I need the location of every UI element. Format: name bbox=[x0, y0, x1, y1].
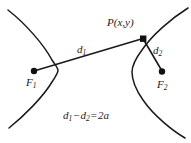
focus-1-text: F bbox=[26, 76, 33, 88]
distance-d1-subscript: 1 bbox=[83, 48, 87, 57]
equation-equals-operator: = bbox=[90, 109, 98, 121]
segment-d1 bbox=[34, 39, 143, 72]
point-p-marker bbox=[140, 36, 146, 42]
equation-d1-text: d bbox=[63, 109, 69, 121]
hyperbola-figure: P(x,y) d1 d2 F1 F2 d1−d2=2a bbox=[0, 0, 191, 143]
distance-d2-subscript: 2 bbox=[159, 49, 163, 58]
point-p-text: P(x,y) bbox=[107, 16, 134, 28]
focus-2-text: F bbox=[157, 78, 164, 90]
distance-d2-text: d bbox=[153, 44, 159, 56]
focus-2-label: F2 bbox=[157, 79, 167, 90]
focus-1-label: F1 bbox=[26, 77, 36, 88]
figure-canvas bbox=[0, 0, 191, 143]
equation-d2-subscript: 2 bbox=[86, 114, 90, 123]
distance-d2-label: d2 bbox=[153, 45, 162, 56]
relation-equation: d1−d2=2a bbox=[63, 110, 109, 121]
focus-1-point bbox=[31, 68, 37, 74]
equation-d1-subscript: 1 bbox=[69, 114, 73, 123]
point-p-label: P(x,y) bbox=[107, 17, 134, 28]
distance-d1-text: d bbox=[77, 43, 83, 55]
focus-2-subscript: 2 bbox=[164, 83, 168, 92]
equation-rhs-text: 2a bbox=[98, 109, 109, 121]
distance-d1-label: d1 bbox=[77, 44, 86, 55]
focus-2-point bbox=[159, 68, 165, 74]
focus-1-subscript: 1 bbox=[33, 81, 37, 90]
